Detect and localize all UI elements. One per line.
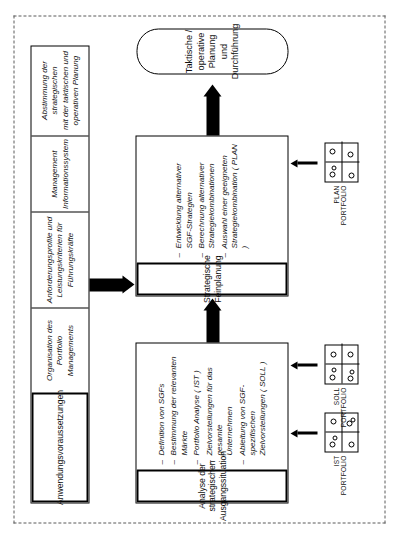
- list-item: – Portfolio Analyse ( IST ): [191, 349, 201, 464]
- list-item-label: Portfolio Analyse ( IST ): [191, 370, 201, 455]
- bullet-marker: –: [191, 455, 201, 464]
- diagram-stage: Anwendungsvoraussetzungen Organisation d…: [0, 0, 398, 537]
- list-item: – Auswahl einer geeigneten Strategiekomb…: [219, 142, 250, 257]
- planning-item-list: – Entwicklung alternativer SGF-Strategie…: [136, 136, 287, 262]
- portfolio-label: IST PORTFOLIO: [332, 455, 346, 497]
- list-item: – Entwicklung alternativer SGF-Strategie…: [173, 142, 193, 257]
- bullet-marker: –: [168, 455, 178, 464]
- list-item-label: Entwicklung alternativer SGF-Strategien: [173, 163, 193, 248]
- prerequisite-cell: Management Informationssystem: [31, 136, 88, 212]
- bullet-marker: –: [237, 455, 247, 464]
- prerequisite-cell: Anforderungsprofile und Leistungskriteri…: [31, 212, 88, 308]
- diagram-canvas: Anwendungsvoraussetzungen Organisation d…: [0, 0, 398, 537]
- list-item: – Ableitung von SGF-spezifischen Zielvor…: [237, 349, 268, 464]
- list-item-label: Bestimmung der relevanten Märkte: [168, 349, 188, 455]
- planning-header: Strategische Feinplanung: [136, 262, 287, 295]
- list-item: – Berechnung alternativer Strategiekombi…: [196, 142, 216, 257]
- portfolio-soll: SOLL PORTFOLIO: [318, 343, 366, 429]
- list-item: – Bestimmung der relevanten Märkte: [168, 349, 188, 464]
- portfolio-plan: PLAN PORTFOLIO: [318, 141, 366, 227]
- list-item-label: Berechnung alternativer Strategiekombina…: [196, 162, 216, 248]
- portfolio-label: PLAN PORTFOLIO: [332, 185, 346, 227]
- list-item: – Zielvorstellungen für das gesamte Unte…: [204, 349, 235, 464]
- prerequisites-box: Anwendungsvoraussetzungen Organisation d…: [30, 45, 89, 503]
- analysis-header: Analyse der strategischen Ausgangssituat…: [136, 469, 287, 502]
- bullet-marker: –: [219, 248, 229, 257]
- portfolio-matrix: [324, 142, 358, 182]
- bullet-marker: –: [196, 248, 206, 257]
- execution-terminator: Taktische / operative Planung und Durchf…: [136, 28, 288, 74]
- list-item-label: Zielvorstellungen für das gesamte Untern…: [204, 349, 235, 455]
- list-item-label: Auswahl einer geeigneten Strategiekombin…: [219, 142, 250, 248]
- prerequisite-cell: Abstimmung der strategischen mit der tak…: [31, 45, 88, 136]
- bullet-marker: –: [204, 455, 214, 464]
- analysis-item-list: – Definition von SGFs – Bestimmung der r…: [136, 343, 287, 469]
- analysis-box: Analyse der strategischen Ausgangssituat…: [135, 342, 288, 503]
- bullet-marker: –: [173, 248, 183, 257]
- list-item: – Definition von SGFs: [156, 349, 166, 464]
- portfolio-label: SOLL PORTFOLIO: [332, 387, 346, 429]
- portfolio-matrix: [324, 344, 358, 384]
- bullet-marker: –: [156, 455, 166, 464]
- prerequisites-header: Anwendungsvoraussetzungen: [31, 392, 88, 502]
- prerequisite-cell: Organisation des Portfolio Managements: [31, 308, 88, 392]
- list-item-label: Ableitung von SGF-spezifischen Zielvorst…: [237, 349, 268, 455]
- planning-box: Strategische Feinplanung – Entwicklung a…: [135, 135, 288, 296]
- list-item-label: Definition von SGFs: [156, 383, 166, 455]
